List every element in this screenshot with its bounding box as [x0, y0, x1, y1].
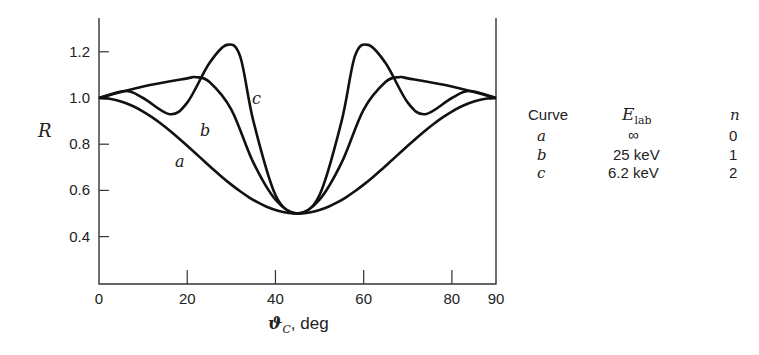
- y-tick-label: 0.6: [69, 181, 90, 198]
- y-tick-label: 1.2: [69, 43, 90, 60]
- legend-row-c-curve: c: [537, 164, 545, 182]
- y-tick-label: 0.8: [69, 135, 90, 152]
- x-tick-label: 0: [95, 290, 103, 307]
- y-tick-label: 0.4: [69, 228, 90, 245]
- legend-header-energy: Elab: [622, 104, 652, 127]
- curve-a: [99, 98, 496, 213]
- axis-frame: [99, 18, 496, 284]
- y-tick-label: 1.0: [69, 89, 90, 106]
- curve-b: [99, 77, 496, 214]
- legend-row-a-energy: ∞: [628, 126, 639, 143]
- x-tick-label: 90: [488, 290, 505, 307]
- legend-row-b-n: 1: [729, 146, 737, 163]
- legend-header-n: n: [730, 106, 740, 124]
- legend-row-a-n: 0: [729, 127, 737, 144]
- curve-c: [99, 44, 496, 213]
- chart-figure: 0.40.60.81.01.202040608090 abcRϑC, deg C…: [0, 0, 759, 355]
- x-tick-label: 80: [444, 290, 461, 307]
- y-axis-label: R: [37, 120, 52, 141]
- curve-label-c: c: [252, 89, 261, 108]
- x-tick-label: 20: [179, 290, 196, 307]
- curves: [99, 44, 496, 213]
- legend-row-a-curve: a: [537, 127, 546, 145]
- x-tick-label: 60: [355, 290, 372, 307]
- legend-header-curve: Curve: [528, 106, 568, 123]
- x-axis-label: ϑC, deg: [268, 313, 329, 336]
- curve-label-b: b: [200, 121, 210, 140]
- curve-label-a: a: [175, 152, 185, 171]
- x-tick-label: 40: [267, 290, 284, 307]
- legend-row-c-n: 2: [729, 164, 737, 181]
- axes: 0.40.60.81.01.202040608090: [69, 18, 504, 307]
- legend-row-b-energy: 25 keV: [613, 146, 660, 163]
- legend-row-b-curve: b: [537, 146, 547, 164]
- legend-row-c-energy: 6.2 keV: [608, 164, 659, 181]
